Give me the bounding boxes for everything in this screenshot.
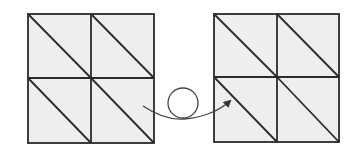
diagram-canvas: [0, 0, 355, 159]
diagram-svg: [0, 0, 355, 159]
left-grid: [28, 14, 154, 143]
right-grid: [214, 14, 339, 142]
